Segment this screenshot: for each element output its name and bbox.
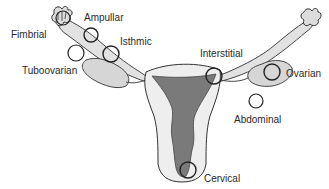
right-fimbriae: [301, 8, 321, 25]
label-ampullar: Ampullar: [84, 12, 124, 23]
label-cervical: Cervical: [204, 173, 240, 184]
label-ovarian: Ovarian: [286, 68, 321, 79]
label-interstitial: Interstitial: [200, 48, 243, 59]
uterus-illustration: Fimbrial Ampullar Isthmic Tuboovarian In…: [0, 0, 329, 189]
label-fimbrial: Fimbrial: [11, 29, 47, 40]
tuboovarian-site-marker: [68, 45, 84, 61]
ectopic-pregnancy-diagram: Fimbrial Ampullar Isthmic Tuboovarian In…: [0, 0, 329, 189]
abdominal-site-marker: [249, 94, 263, 108]
label-isthmic: Isthmic: [120, 36, 152, 47]
label-abdominal: Abdominal: [234, 114, 281, 125]
label-tuboovarian: Tuboovarian: [22, 65, 77, 76]
